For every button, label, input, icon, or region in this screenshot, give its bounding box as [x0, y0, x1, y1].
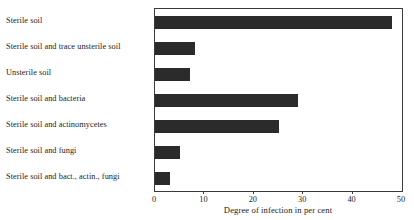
category-label: Unsterile soil — [6, 68, 152, 78]
x-tick-mark — [253, 191, 254, 194]
category-label: Sterile soil and trace unsterile soil — [6, 42, 152, 52]
bar — [155, 16, 392, 29]
x-axis-title: Degree of infection in per cent — [154, 205, 402, 216]
bar — [155, 68, 190, 81]
bar-chart: Sterile soilSterile soil and trace unste… — [0, 0, 414, 220]
category-label: Sterile soil and bacteria — [6, 94, 152, 104]
x-tick-label: 10 — [199, 195, 207, 205]
plot-area — [154, 8, 403, 192]
x-tick-label: 0 — [152, 195, 156, 205]
x-tick-label: 40 — [347, 195, 355, 205]
x-tick-label: 30 — [298, 195, 306, 205]
bar — [155, 120, 279, 133]
x-tick-label: 20 — [249, 195, 257, 205]
bars-layer — [155, 9, 402, 191]
bar — [155, 172, 170, 185]
bar — [155, 146, 180, 159]
x-tick-mark — [352, 191, 353, 194]
category-label: Sterile soil and fungi — [6, 146, 152, 156]
x-tick-mark — [302, 191, 303, 194]
category-label: Sterile soil and bact., actin., fungi — [6, 172, 152, 182]
x-tick-label: 50 — [397, 195, 405, 205]
bar — [155, 42, 195, 55]
category-label: Sterile soil — [6, 16, 152, 26]
category-axis-labels: Sterile soilSterile soil and trace unste… — [0, 0, 152, 190]
x-tick-mark — [203, 191, 204, 194]
category-label: Sterile soil and actinomycetes — [6, 120, 152, 130]
bar — [155, 94, 298, 107]
